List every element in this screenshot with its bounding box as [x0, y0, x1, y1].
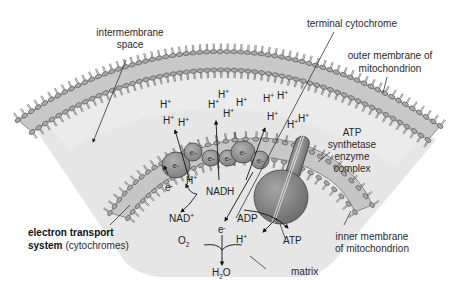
mitochondrion-diagram: e-e-e-e-e-e- intermembrane [0, 0, 451, 291]
label-matrix: matrix [291, 266, 318, 277]
svg-text:e-: e- [172, 161, 179, 170]
atp-label: ATP [283, 235, 302, 246]
label-atp-synthase-2: synthetase [328, 139, 377, 150]
adp-label: ADP [237, 213, 258, 224]
label-outer-membrane-line2: mitochondrion [359, 63, 422, 74]
label-terminal-cytochrome: terminal cytochrome [307, 18, 397, 29]
nadh-label: NADH [206, 186, 234, 197]
label-atp-synthase-4: complex [333, 163, 370, 174]
svg-text:e-: e- [189, 148, 196, 157]
electron-carrier: e- [184, 143, 202, 161]
label-ets-system: system [28, 240, 63, 251]
label-inner-membrane-2: of mitochondrion [335, 243, 409, 254]
label-outer-membrane-line1: outer membrane of [348, 50, 433, 61]
label-ets-line2: system(cytochromes) [28, 240, 129, 251]
label-intermembrane-line1: intermembrane [96, 27, 164, 38]
svg-text:e-: e- [239, 148, 246, 157]
label-ets-cytochromes: (cytochromes) [65, 240, 128, 251]
svg-text:e-: e- [256, 156, 263, 165]
label-ets-bold: electron transport [28, 227, 114, 238]
label-intermembrane-line2: space [117, 39, 144, 50]
svg-text:e-: e- [207, 154, 214, 163]
label-inner-membrane-1: inner membrane [336, 231, 409, 242]
label-atp-synthase-3: enzyme [334, 151, 369, 162]
svg-text:e-: e- [224, 154, 231, 163]
label-atp-synthase-1: ATP [343, 127, 362, 138]
